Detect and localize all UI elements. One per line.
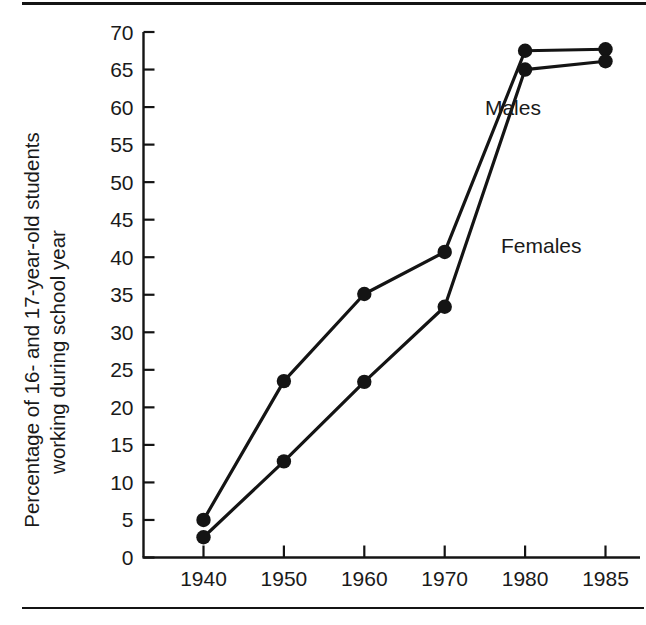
data-series-layer <box>196 42 612 544</box>
y-tick-label: 5 <box>122 508 134 531</box>
y-tick-label: 45 <box>110 208 133 231</box>
x-tick-label: 1940 <box>180 567 227 590</box>
y-tick-label: 50 <box>110 171 133 194</box>
axes <box>143 32 641 558</box>
y-tick-label: 0 <box>122 546 134 569</box>
y-tick-label: 10 <box>110 471 133 494</box>
x-tick-label: 1970 <box>421 567 468 590</box>
y-tick-label: 30 <box>110 321 133 344</box>
data-point-marker-males <box>438 245 452 259</box>
data-point-marker-females <box>277 454 291 468</box>
data-point-marker-females <box>357 375 371 389</box>
x-axis-ticks: 194019501960197019801985 <box>180 546 629 590</box>
series-annotation-females: Females <box>501 234 582 257</box>
series-line-females <box>204 61 606 537</box>
data-point-marker-males <box>518 44 532 58</box>
y-tick-label: 25 <box>110 358 133 381</box>
y-axis-ticks: 0510152025303540455055606570 <box>110 21 154 570</box>
y-axis-label-line2: working during school year <box>46 230 69 475</box>
line-chart: Percentage of 16- and 17-year-old studen… <box>0 0 646 625</box>
data-point-marker-females <box>598 54 612 68</box>
data-point-marker-males <box>196 513 210 527</box>
x-tick-label: 1985 <box>582 567 629 590</box>
data-point-marker-females <box>518 62 532 76</box>
y-tick-label: 60 <box>110 96 133 119</box>
data-point-marker-males <box>277 374 291 388</box>
y-tick-label: 40 <box>110 246 133 269</box>
y-tick-label: 20 <box>110 396 133 419</box>
series-line-males <box>204 49 606 520</box>
x-tick-label: 1950 <box>261 567 308 590</box>
data-point-marker-males <box>357 287 371 301</box>
y-tick-label: 70 <box>110 21 133 44</box>
series-annotations: MalesFemales <box>485 96 582 258</box>
y-axis-label-line1: Percentage of 16- and 17-year-old studen… <box>20 132 43 527</box>
x-tick-label: 1980 <box>502 567 549 590</box>
x-tick-label: 1960 <box>341 567 388 590</box>
figure-container: Percentage of 16- and 17-year-old studen… <box>0 0 646 625</box>
y-tick-label: 55 <box>110 133 133 156</box>
series-annotation-males: Males <box>485 96 541 119</box>
y-tick-label: 35 <box>110 283 133 306</box>
y-tick-label: 65 <box>110 58 133 81</box>
data-point-marker-females <box>438 300 452 314</box>
data-point-marker-females <box>196 530 210 544</box>
y-axis-label: Percentage of 16- and 17-year-old studen… <box>20 132 69 527</box>
y-tick-label: 15 <box>110 433 133 456</box>
